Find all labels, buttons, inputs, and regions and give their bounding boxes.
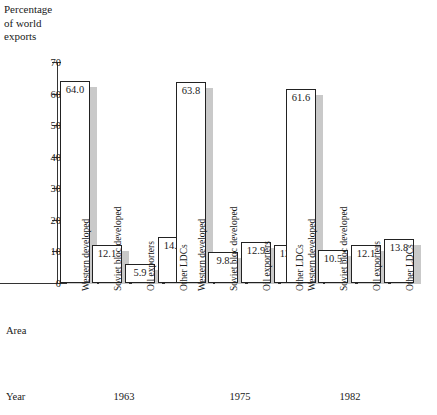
bar-value-label: 61.6 (286, 92, 316, 103)
category-label: Western developed (81, 219, 91, 291)
category-label: Soviet bloc developed (339, 207, 349, 291)
group-year-label: 1975 (210, 391, 270, 402)
bar-value-label: 63.8 (176, 85, 206, 96)
category-label: Oil exporters (146, 241, 156, 291)
y-tick-label: 70 (21, 57, 61, 68)
y-tick-label: 20 (21, 214, 61, 225)
row-heading-year: Year (6, 391, 25, 402)
category-label: Oil exporters (372, 241, 382, 291)
category-label: Oil exporters (262, 241, 272, 291)
y-tick-label: 50 (21, 120, 61, 131)
group-year-label: 1982 (320, 391, 380, 402)
bar-chart: Percentage of world exports 010203040506… (0, 0, 437, 415)
y-tick-label: 40 (21, 151, 61, 162)
category-label: Other LDCs (405, 244, 415, 291)
y-tick-label: 10 (21, 246, 61, 257)
y-tick-label: 60 (21, 88, 61, 99)
y-axis-title: Percentage of world exports (4, 3, 52, 44)
category-label: Soviet bloc developed (229, 207, 239, 291)
category-label: Western developed (197, 219, 207, 291)
bar-value-label: 64.0 (60, 84, 90, 95)
category-label: Other LDCs (179, 244, 189, 291)
row-heading-area: Area (6, 325, 26, 336)
group-year-label: 1963 (94, 391, 154, 402)
category-label: Western developed (307, 219, 317, 291)
category-label: Soviet bloc developed (113, 207, 123, 291)
y-tick-label: 0 (21, 278, 61, 289)
category-label: Other LDCs (295, 244, 305, 291)
y-tick-label: 30 (21, 183, 61, 194)
